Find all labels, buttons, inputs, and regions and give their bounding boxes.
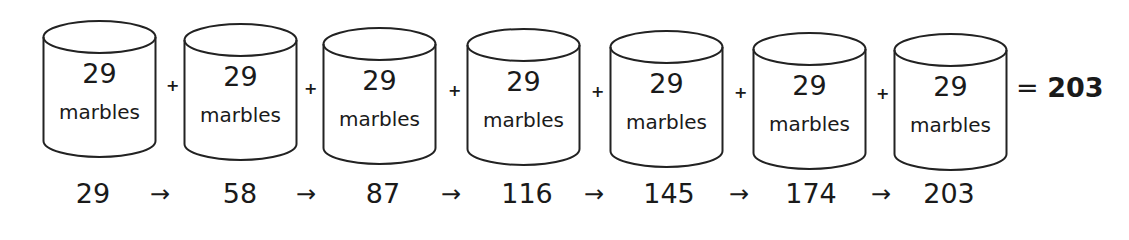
cylinder-icon <box>42 20 157 158</box>
running-total: 145 <box>634 178 704 209</box>
arrow-icon: → <box>150 180 170 208</box>
equals-sign: = <box>1016 72 1039 103</box>
container-count: 29 <box>752 70 867 101</box>
running-total: 58 <box>205 178 275 209</box>
container-1: 29 marbles <box>42 20 157 158</box>
running-total: 87 <box>348 178 418 209</box>
running-total: 203 <box>914 178 984 209</box>
arrow-icon: → <box>871 180 891 208</box>
plus-sign: + <box>591 82 604 101</box>
container-3: 29 marbles <box>322 27 437 165</box>
container-count: 29 <box>893 71 1008 102</box>
container-unit: marbles <box>609 110 724 134</box>
plus-sign: + <box>734 83 747 102</box>
cylinder-icon <box>466 28 581 166</box>
container-unit: marbles <box>893 113 1008 137</box>
container-6: 29 marbles <box>752 32 867 170</box>
container-count: 29 <box>42 58 157 89</box>
container-unit: marbles <box>466 108 581 132</box>
total-value: 203 <box>1047 72 1103 103</box>
container-2: 29 marbles <box>183 23 298 161</box>
container-count: 29 <box>609 68 724 99</box>
equation-result: = 203 <box>1016 72 1104 103</box>
cylinder-icon <box>322 27 437 165</box>
arrow-icon: → <box>296 180 316 208</box>
cylinder-icon <box>183 23 298 161</box>
container-count: 29 <box>183 61 298 92</box>
cylinder-icon <box>609 30 724 168</box>
container-7: 29 marbles <box>893 33 1008 171</box>
container-4: 29 marbles <box>466 28 581 166</box>
cylinder-icon <box>752 32 867 170</box>
container-unit: marbles <box>42 100 157 124</box>
running-total: 116 <box>492 178 562 209</box>
container-unit: marbles <box>752 112 867 136</box>
arrow-icon: → <box>441 180 461 208</box>
running-total: 174 <box>776 178 846 209</box>
container-count: 29 <box>466 66 581 97</box>
container-unit: marbles <box>322 107 437 131</box>
plus-sign: + <box>876 84 889 103</box>
container-5: 29 marbles <box>609 30 724 168</box>
arrow-icon: → <box>729 180 749 208</box>
plus-sign: + <box>448 81 461 100</box>
container-unit: marbles <box>183 103 298 127</box>
arrow-icon: → <box>584 180 604 208</box>
running-total: 29 <box>58 178 128 209</box>
container-count: 29 <box>322 65 437 96</box>
plus-sign: + <box>304 79 317 98</box>
plus-sign: + <box>166 76 179 95</box>
cylinder-icon <box>893 33 1008 171</box>
